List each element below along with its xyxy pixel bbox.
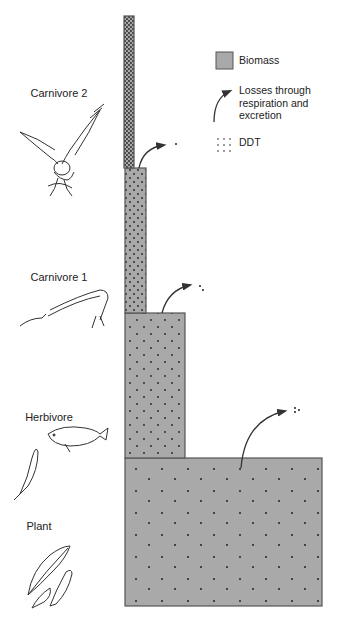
loss-arrow-carnivore-1 [162, 285, 190, 313]
pyramid-diagram [0, 0, 342, 620]
bird-of-prey-icon [20, 104, 104, 196]
legend-biomass-swatch [216, 52, 233, 69]
needlefish-icon [20, 290, 108, 328]
legend-ddt-dots-icon [217, 138, 231, 152]
plant-leaves-icon [28, 546, 72, 608]
herbivore-plant-leaf-icon [14, 449, 38, 500]
biomass-block-carnivore-2 [124, 16, 134, 168]
minnow-fish-icon [48, 427, 108, 452]
legend-losses-arrow-icon [214, 91, 230, 122]
loss-arrow-carnivore-2 [139, 145, 164, 168]
biomass-block-plant [125, 458, 322, 606]
biomass-block-herbivore [125, 313, 185, 458]
biomass-block-carnivore-1 [125, 168, 146, 313]
